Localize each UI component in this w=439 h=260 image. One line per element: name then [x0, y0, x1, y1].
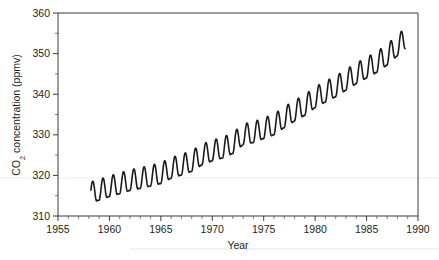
x-tick-label: 1985: [355, 223, 379, 235]
y-axis-title: CO2 concentration (ppmv): [10, 54, 27, 175]
y-tick-label: 350: [32, 47, 50, 59]
figure-container: 310320330340350360 195519601965197019751…: [0, 0, 439, 260]
x-tick-label: 1990: [406, 223, 430, 235]
y-axis-ticks: [53, 13, 58, 216]
x-axis-tick-labels: 19551960196519701975198019851990: [46, 223, 430, 235]
x-tick-label: 1970: [201, 223, 225, 235]
x-tick-label: 1955: [46, 223, 70, 235]
y-axis-tick-labels: 310320330340350360: [32, 7, 50, 222]
x-axis-title: Year: [227, 239, 249, 251]
x-tick-label: 1965: [149, 223, 173, 235]
y-tick-label: 310: [32, 210, 50, 222]
co2-data-line: [91, 31, 405, 201]
x-tick-label: 1980: [303, 223, 327, 235]
y-tick-label: 360: [32, 7, 50, 19]
x-axis-ticks: [58, 216, 418, 221]
y-tick-label: 340: [32, 88, 50, 100]
x-tick-label: 1960: [98, 223, 122, 235]
co2-concentration-chart: 310320330340350360 195519601965197019751…: [0, 0, 439, 260]
y-tick-label: 330: [32, 128, 50, 140]
x-tick-label: 1975: [252, 223, 276, 235]
y-tick-label: 320: [32, 169, 50, 181]
